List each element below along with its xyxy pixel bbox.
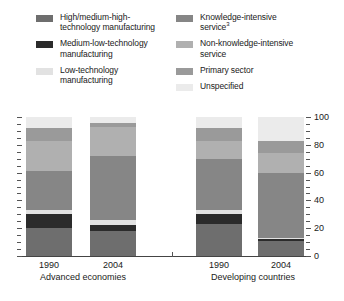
y-tick-right-30 xyxy=(306,214,310,215)
y-tick-right-40 xyxy=(306,200,311,201)
stacked-bar-chart: High/medium-high- technology manufacturi… xyxy=(0,0,344,301)
bar-segment xyxy=(196,214,242,224)
y-tick-right-75 xyxy=(306,152,310,153)
y-tick-right-45 xyxy=(306,193,310,194)
legend-label-unspecified: Unspecified xyxy=(200,81,243,91)
legend-swatch-low-technology-manufacturing xyxy=(36,68,53,75)
legend-item-medium-low-technology-manufacturing: Medium-low-technology manufacturing xyxy=(36,38,176,58)
legend-label-primary-sector: Primary sector xyxy=(200,65,253,75)
y-tick-right-85 xyxy=(306,138,310,139)
bar-segment xyxy=(26,171,72,210)
x-tick-label-2: 2004 xyxy=(90,260,136,270)
bar-3 xyxy=(196,117,242,256)
y-axis-label-20: 20 xyxy=(314,223,324,233)
y-tick-right-50 xyxy=(306,187,310,188)
x-group-label-2: Developing countries xyxy=(188,272,318,282)
legend-item-knowledge-intensive-service: Knowledge-intensive service3 xyxy=(176,12,336,32)
legend-item-low-technology-manufacturing: Low-technology manufacturing xyxy=(36,65,176,85)
bar-segment xyxy=(196,224,242,256)
y-tick-left-60 xyxy=(17,173,22,174)
y-tick-left-35 xyxy=(17,207,21,208)
x-axis-line xyxy=(17,256,311,257)
bar-segment xyxy=(26,141,72,172)
bar-segment xyxy=(90,231,136,256)
x-tick-label-4: 2004 xyxy=(258,260,304,270)
y-tick-right-100 xyxy=(306,117,311,118)
y-tick-left-80 xyxy=(17,145,22,146)
y-tick-left-70 xyxy=(17,159,21,160)
y-tick-left-65 xyxy=(17,166,21,167)
x-tick-label-1: 1990 xyxy=(26,260,72,270)
bar-segment xyxy=(258,153,304,172)
y-tick-right-25 xyxy=(306,221,310,222)
y-tick-left-25 xyxy=(17,221,21,222)
y-tick-right-65 xyxy=(306,166,310,167)
y-tick-left-15 xyxy=(17,235,21,236)
bar-segment xyxy=(26,128,72,141)
bar-segment xyxy=(258,141,304,154)
bar-segment xyxy=(258,173,304,238)
y-tick-right-35 xyxy=(306,207,310,208)
legend-label-superscript: 3 xyxy=(226,21,229,27)
legend-swatch-knowledge-intensive-service xyxy=(176,15,193,22)
y-tick-left-75 xyxy=(17,152,21,153)
y-tick-left-20 xyxy=(17,228,22,229)
y-tick-left-10 xyxy=(17,242,21,243)
legend-item-primary-sector: Primary sector xyxy=(176,65,336,75)
y-tick-right-70 xyxy=(306,159,310,160)
bar-segment xyxy=(90,156,136,220)
legend-swatch-primary-sector xyxy=(176,68,193,75)
y-axis-label-40: 40 xyxy=(314,195,324,205)
y-tick-left-50 xyxy=(17,187,21,188)
bar-segment xyxy=(196,117,242,128)
legend-swatch-medium-low-technology-manufacturing xyxy=(36,41,53,48)
bar-segment xyxy=(258,117,304,141)
y-axis-label-100: 100 xyxy=(314,112,329,122)
legend-column-right: Knowledge-intensive service3Non-knowledg… xyxy=(176,12,336,97)
y-tick-right-5 xyxy=(306,249,310,250)
y-axis-label-60: 60 xyxy=(314,168,324,178)
y-tick-left-100 xyxy=(17,117,22,118)
y-tick-right-60 xyxy=(306,173,311,174)
bar-segment xyxy=(196,159,242,210)
legend-swatch-high-medium-high-technology-manufacturing xyxy=(36,15,53,22)
y-tick-left-85 xyxy=(17,138,21,139)
legend-item-unspecified: Unspecified xyxy=(176,81,336,91)
y-tick-left-5 xyxy=(17,249,21,250)
x-group-label-1: Advanced economies xyxy=(18,272,148,282)
legend-swatch-non-knowledge-intensive-service xyxy=(176,41,193,48)
legend-label-non-knowledge-intensive-service: Non-knowledge-intensive service xyxy=(200,38,293,58)
y-tick-right-95 xyxy=(306,124,310,125)
legend-label-medium-low-technology-manufacturing: Medium-low-technology manufacturing xyxy=(60,38,148,58)
y-axis-label-0: 0 xyxy=(314,251,319,261)
y-tick-left-90 xyxy=(17,131,21,132)
y-tick-right-55 xyxy=(306,180,310,181)
y-tick-right-20 xyxy=(306,228,311,229)
y-tick-left-40 xyxy=(17,200,22,201)
bar-segment xyxy=(196,128,242,141)
plot-area: 100806040200 1990 2004 1990 2004 Advance… xyxy=(0,104,344,301)
legend-item-high-medium-high-technology-manufacturing: High/medium-high- technology manufacturi… xyxy=(36,12,176,32)
legend-label-high-medium-high-technology-manufacturing: High/medium-high- technology manufacturi… xyxy=(60,12,155,32)
y-axis-label-80: 80 xyxy=(314,140,324,150)
y-tick-left-95 xyxy=(17,124,21,125)
bar-4 xyxy=(258,117,304,256)
bar-1 xyxy=(26,117,72,256)
y-tick-right-15 xyxy=(306,235,310,236)
bar-2 xyxy=(90,117,136,256)
legend-label-knowledge-intensive-service: Knowledge-intensive service3 xyxy=(200,12,277,32)
chart-legend: High/medium-high- technology manufacturi… xyxy=(0,0,344,104)
bar-segment xyxy=(26,117,72,128)
bar-segment xyxy=(26,228,72,256)
y-tick-left-0 xyxy=(17,256,22,257)
legend-item-non-knowledge-intensive-service: Non-knowledge-intensive service xyxy=(176,38,336,58)
bar-segment xyxy=(26,214,72,228)
y-tick-right-10 xyxy=(306,242,310,243)
y-tick-right-80 xyxy=(306,145,311,146)
legend-label-low-technology-manufacturing: Low-technology manufacturing xyxy=(60,65,118,85)
y-tick-left-45 xyxy=(17,193,21,194)
y-tick-right-0 xyxy=(306,256,311,257)
y-tick-left-55 xyxy=(17,180,21,181)
bar-segment xyxy=(196,141,242,159)
y-tick-right-90 xyxy=(306,131,310,132)
